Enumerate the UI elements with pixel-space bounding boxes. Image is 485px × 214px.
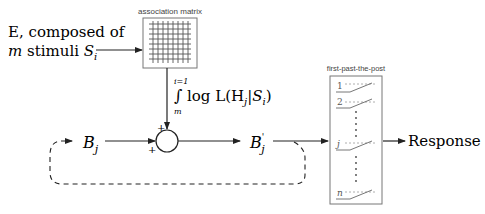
belief-prior: Bj [82, 133, 99, 156]
svg-text:n: n [337, 188, 343, 198]
integral-lower-limit: m [174, 107, 182, 116]
integral-upper-limit: i=1 [174, 77, 188, 86]
plus-sign-left: + [148, 144, 156, 155]
response-label: Response [408, 132, 481, 150]
fptp-label: first-past-the-post [327, 64, 386, 73]
belief-posterior: B'j [249, 132, 265, 156]
matrix-label: association matrix [138, 7, 202, 16]
log-likelihood-integral: i=1 ∫ m log L(Hj|Si) [174, 77, 272, 116]
diagram-canvas: E, composed of m stimuli Si association … [0, 0, 485, 214]
input-line2: m stimuli Si [8, 42, 97, 62]
input-label: E, composed of m stimuli Si [8, 23, 126, 62]
plus-sign-top: + [157, 122, 165, 133]
input-line1: E, composed of [8, 23, 126, 41]
integral-expression: log L(Hj|Si) [187, 87, 272, 107]
svg-text:2: 2 [337, 97, 343, 107]
integral-sign: ∫ [174, 86, 182, 105]
svg-text:1: 1 [337, 81, 343, 91]
summation-node [156, 130, 178, 152]
association-matrix-box [143, 18, 197, 68]
